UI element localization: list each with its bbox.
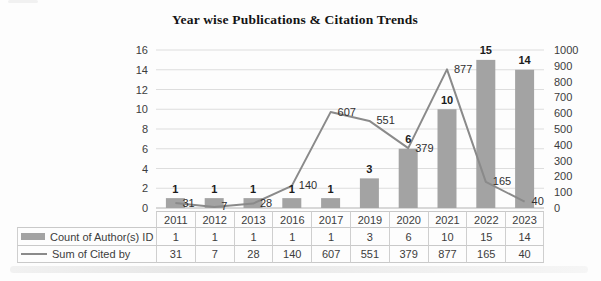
value-cell: 31 [156,245,195,263]
right-axis-tick: 100 [554,186,572,198]
bar-2019 [360,178,379,208]
line-label-2022: 165 [493,175,511,187]
year-cell: 2011 [156,211,195,227]
value-cell: 551 [350,245,389,263]
value-cell: 1 [234,227,273,245]
table-corner-empty [17,211,156,227]
bar-2021 [438,109,457,208]
value-cell: 1 [311,227,350,245]
value-cell: 877 [428,245,467,263]
value-cell: 7 [195,245,234,263]
year-cell: 2022 [466,211,505,227]
legend-cell: Count of Author(s) ID [17,227,156,245]
value-cell: 14 [505,227,544,245]
bar-2017 [321,198,340,208]
legend-label: Sum of Cited by [52,248,130,260]
year-cell: 2016 [272,211,311,227]
line-label-2023: 40 [532,195,544,207]
line-label-2017: 607 [338,106,356,118]
bar-label-2013: 1 [250,183,256,195]
chart-plot: 0246810121416010020030040050060070080090… [0,0,601,215]
chart-data-table: 2011201220132016201720192020202120222023… [17,211,544,263]
right-axis-tick: 600 [554,107,572,119]
citation-trend-line [175,69,524,207]
line-label-2019: 551 [376,114,394,126]
bar-2023 [515,70,534,208]
right-axis-tick: 1000 [554,44,578,56]
value-cell: 28 [234,245,273,263]
value-cell: 379 [389,245,428,263]
bar-label-2023: 14 [518,54,531,66]
line-label-2011: 31 [182,197,194,209]
line-label-2013: 28 [260,197,272,209]
left-axis-tick: 16 [136,44,148,56]
value-cell: 15 [466,227,505,245]
line-label-2016: 140 [299,179,317,191]
right-axis-tick: 500 [554,123,572,135]
year-cell: 2012 [195,211,234,227]
bar-label-2011: 1 [172,183,178,195]
figure: Year wise Publications & Citation Trends… [0,0,601,281]
right-axis-tick: 700 [554,91,572,103]
year-cell: 2019 [350,211,389,227]
value-cell: 607 [311,245,350,263]
value-cell: 6 [389,227,428,245]
right-axis-tick: 800 [554,76,572,88]
bar-2016 [282,198,301,208]
value-cell: 1 [272,227,311,245]
right-axis-tick: 0 [554,202,560,214]
right-axis-tick: 400 [554,139,572,151]
left-axis-tick: 8 [142,123,148,135]
bar-label-2012: 1 [211,183,217,195]
right-axis-tick: 900 [554,60,572,72]
left-axis-tick: 14 [136,64,148,76]
bar-label-2022: 15 [480,44,492,56]
left-axis-tick: 6 [142,143,148,155]
bar-label-2017: 1 [328,183,334,195]
bar-label-2019: 3 [366,163,372,175]
year-cell: 2021 [428,211,467,227]
value-cell: 3 [350,227,389,245]
value-cell: 165 [466,245,505,263]
scan-artifact-top [8,0,38,3]
legend-cell: Sum of Cited by [17,245,156,263]
bar-legend-swatch [21,233,45,240]
year-cell: 2017 [311,211,350,227]
right-axis-tick: 300 [554,155,572,167]
left-axis-tick: 2 [142,182,148,194]
value-cell: 140 [272,245,311,263]
left-axis-tick: 4 [142,163,148,175]
value-cell: 10 [428,227,467,245]
bar-label-2016: 1 [289,183,295,195]
line-legend-swatch [21,253,47,255]
value-cell: 1 [195,227,234,245]
bar-label-2020: 6 [405,133,411,145]
left-axis-tick: 12 [136,84,148,96]
right-axis-tick: 200 [554,170,572,182]
line-label-2020: 379 [415,142,433,154]
year-cell: 2023 [505,211,544,227]
left-axis-tick: 10 [136,103,148,115]
legend-label: Count of Author(s) ID [50,231,153,243]
value-cell: 1 [156,227,195,245]
bar-label-2021: 10 [441,94,453,106]
line-label-2021: 877 [454,63,472,75]
value-cell: 40 [505,245,544,263]
bar-2020 [399,149,418,208]
scan-artifact-bottom [10,266,588,273]
year-cell: 2013 [234,211,273,227]
year-cell: 2020 [389,211,428,227]
